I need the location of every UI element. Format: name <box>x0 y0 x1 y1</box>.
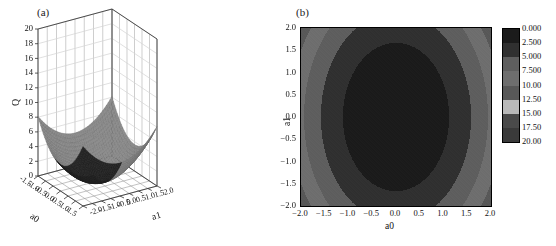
colorbar-tick-label: 10.00 <box>522 80 541 90</box>
contour-y-tick: 1.0 <box>272 67 296 77</box>
colorbar-segment <box>503 128 519 142</box>
colorbar-segment <box>503 57 519 71</box>
panel-b-label: (b) <box>296 6 309 18</box>
colorbar-tick-label: 5.000 <box>522 51 541 61</box>
colorbar: 0.0002.5005.0007.50010.0012.5015.0017.50… <box>502 28 554 150</box>
colorbar-tick-label: 20.00 <box>522 136 541 146</box>
contour-y-axis-title: a1 <box>282 117 292 126</box>
colorbar-tick-label: 12.50 <box>522 94 541 104</box>
contour-y-tick: 2.0 <box>272 22 296 32</box>
contour-plot-area <box>300 27 492 207</box>
colorbar-segment <box>503 100 519 114</box>
colorbar-segment <box>503 43 519 57</box>
surface-plot-canvas <box>0 0 278 246</box>
colorbar-gradient <box>502 28 520 143</box>
panel-b-contour-plot: (b) −2.0−1.5−1.0−0.50.00.51.01.52.0 2.01… <box>278 0 556 246</box>
colorbar-tick-label: 2.500 <box>522 37 541 47</box>
colorbar-segment <box>503 86 519 100</box>
contour-y-tick: 0.5 <box>272 89 296 99</box>
colorbar-tick-label: 17.50 <box>522 122 541 132</box>
colorbar-segment <box>503 71 519 85</box>
colorbar-tick-label: 7.500 <box>522 65 541 75</box>
colorbar-tick-label: 15.00 <box>522 108 541 118</box>
contour-y-tick: −0.5 <box>272 133 296 143</box>
colorbar-segment <box>503 29 519 43</box>
contour-canvas <box>301 28 491 206</box>
contour-y-tick: −2.0 <box>272 200 296 210</box>
panel-a-surface-plot: (a) <box>0 0 278 246</box>
contour-x-axis-title: a0 <box>385 221 394 231</box>
colorbar-tick-label: 0.000 <box>522 23 541 33</box>
contour-y-tick: 1.5 <box>272 44 296 54</box>
contour-y-tick: −1.0 <box>272 156 296 166</box>
contour-y-tick: −1.5 <box>272 178 296 188</box>
contour-x-tick: 2.0 <box>475 208 505 218</box>
figure-root: (a) (b) −2.0−1.5−1.0−0.50.00.51.01.52.0 … <box>0 0 556 246</box>
colorbar-segment <box>503 114 519 128</box>
